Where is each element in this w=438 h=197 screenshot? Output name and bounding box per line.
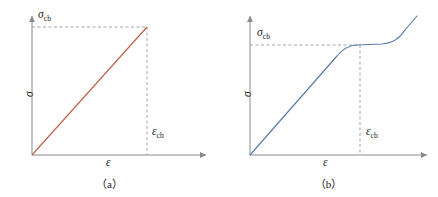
sigma-subscript-b: cb <box>263 32 271 41</box>
panel-b-caption: （b） <box>219 175 438 191</box>
y-axis-name-b: σ <box>242 91 254 97</box>
sigma-cb-label-a: σcb <box>38 9 51 23</box>
panel-a: σcb εcb σ ε （a） <box>0 0 219 197</box>
stress-strain-curve-a <box>32 27 147 155</box>
epsilon-subscript-b: cb <box>371 131 379 140</box>
eps-cb-label-a: εcb <box>152 126 164 140</box>
panel-b: σcb εcb σ ε （b） <box>219 0 438 197</box>
sigma-cb-label-b: σcb <box>257 27 270 41</box>
epsilon-subscript-a: cb <box>157 131 165 140</box>
stress-strain-curve-b <box>250 16 417 155</box>
panel-a-caption: （a） <box>0 175 219 191</box>
figure-root: σcb εcb σ ε （a） σc <box>0 0 438 197</box>
y-axis-name-a: σ <box>24 91 36 97</box>
x-axis-name-b: ε <box>323 157 328 169</box>
eps-cb-label-b: εcb <box>366 126 378 140</box>
sigma-subscript-a: cb <box>44 14 52 23</box>
x-axis-name-a: ε <box>106 157 111 169</box>
panel-b-plot <box>219 0 438 197</box>
